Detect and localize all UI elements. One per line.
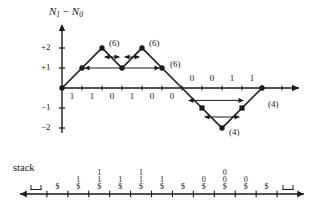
- bit-label-below-3: 1: [130, 91, 135, 101]
- span-arrow-2-head-right: [135, 54, 140, 59]
- stack-cell-2: 1$: [76, 176, 80, 190]
- path-marker-dot-4: [139, 45, 144, 50]
- annotation-1: (6): [149, 38, 160, 48]
- stack-symbol: $: [55, 183, 59, 190]
- y-tick-label-0: +2: [41, 42, 51, 52]
- span-arrow-2-head-left: [125, 54, 130, 59]
- stack-symbol: $: [223, 183, 227, 190]
- stack-symbol: $: [202, 183, 206, 190]
- path-marker-dot-9: [259, 85, 264, 90]
- span-arrow-3-head-left: [189, 98, 194, 103]
- stack-cell-8: 0$: [202, 176, 206, 190]
- path-marker-square-6: [199, 105, 204, 110]
- stack-symbol: [31, 183, 42, 190]
- path-marker-dot-0: [59, 85, 64, 90]
- stack-cell-0: [31, 183, 42, 190]
- path-marker-dot-7: [219, 125, 224, 130]
- path-marker-dot-5: [159, 65, 164, 70]
- stack-panel-label: stack: [13, 162, 35, 173]
- stack-symbol: $: [181, 183, 185, 190]
- stack-cell-4: 1$: [118, 176, 122, 190]
- stack-symbol: $: [97, 183, 101, 190]
- stack-symbol: $: [139, 183, 143, 190]
- bit-label-above-3: 1: [250, 73, 255, 83]
- path-marker-square-8: [239, 105, 244, 110]
- y-axis-arrowhead: [59, 24, 65, 31]
- stack-cell-10: 0$: [244, 176, 248, 190]
- annotation-0: (6): [109, 38, 120, 48]
- stack-cell-1: $: [55, 183, 59, 190]
- span-arrow-1-head-right: [115, 54, 120, 59]
- stack-cell-6: 1$: [160, 176, 164, 190]
- bit-label-below-2: 0: [110, 91, 115, 101]
- stack-cell-5: 11$: [139, 169, 143, 190]
- stack-symbol: $: [76, 183, 80, 190]
- bit-label-below-5: 0: [170, 91, 175, 101]
- span-arrow-4-head-left: [205, 114, 210, 119]
- y-axis-label: N1 − N0: [49, 5, 83, 19]
- y-tick-label-3: −2: [41, 122, 51, 132]
- stack-cell-7: $: [181, 183, 185, 190]
- stack-symbol: $: [265, 183, 269, 190]
- span-arrow-3-head-right: [239, 98, 244, 103]
- stack-symbol: [282, 183, 293, 190]
- stack-cell-12: [282, 183, 293, 190]
- span-arrow-0-head-left: [85, 65, 90, 70]
- y-tick-label-2: −1: [41, 102, 51, 112]
- bit-label-below-0: 1: [70, 91, 75, 101]
- annotation-2: (6): [170, 59, 181, 69]
- stack-cell-9: 00$: [223, 169, 227, 190]
- stack-symbol: $: [160, 183, 164, 190]
- path-marker-dot-2: [99, 45, 104, 50]
- path-marker-dot-1: [79, 65, 84, 70]
- bit-label-below-4: 0: [150, 91, 155, 101]
- annotation-3: (4): [229, 127, 240, 137]
- span-arrow-4-head-right: [235, 114, 240, 119]
- bit-label-above-0: 0: [190, 73, 195, 83]
- stack-symbol: $: [118, 183, 122, 190]
- bit-label-above-2: 1: [230, 73, 235, 83]
- span-arrow-1-head-left: [105, 54, 110, 59]
- stack-cell-3: 11$: [97, 169, 101, 190]
- y-tick-label-1: +1: [41, 62, 51, 72]
- bit-label-below-1: 1: [90, 91, 95, 101]
- annotation-4: (4): [268, 99, 279, 109]
- span-arrow-0-head-right: [155, 65, 160, 70]
- bit-label-above-1: 0: [210, 73, 215, 83]
- x-axis-arrowhead: [292, 85, 299, 91]
- stack-symbol: $: [244, 183, 248, 190]
- stack-cell-11: $: [265, 183, 269, 190]
